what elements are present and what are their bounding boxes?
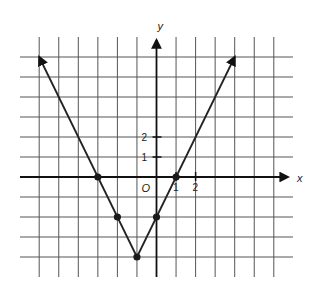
x-tick-label: 1 xyxy=(173,182,179,193)
data-point xyxy=(114,213,121,220)
data-point xyxy=(94,173,101,180)
x-axis-label: x xyxy=(296,172,303,184)
data-point xyxy=(153,213,160,220)
axes xyxy=(20,40,288,277)
y-tick-label: 1 xyxy=(142,152,148,163)
axis-labels: yxO1212 xyxy=(142,20,304,194)
y-axis-label: y xyxy=(157,20,165,32)
graph-plot: yxO1212 xyxy=(0,0,322,291)
data-point xyxy=(133,253,140,260)
x-tick-label: 2 xyxy=(193,182,199,193)
data-point xyxy=(172,173,179,180)
y-tick-label: 2 xyxy=(142,132,148,143)
origin-label: O xyxy=(142,182,151,194)
